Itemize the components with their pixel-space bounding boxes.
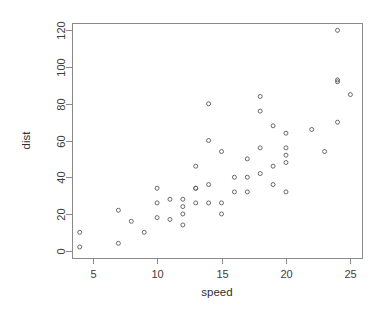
x-axis-tick-label: 25 <box>344 268 356 280</box>
data-point <box>220 212 224 216</box>
y-axis-tick-label: 20 <box>55 208 67 220</box>
data-point <box>271 164 275 168</box>
y-axis-tick-label: 100 <box>55 58 67 76</box>
data-point <box>245 175 249 179</box>
data-point <box>181 205 185 209</box>
data-point <box>181 223 185 227</box>
data-point <box>271 124 275 128</box>
x-axis: 510152025 <box>90 258 356 280</box>
scatter-plot-figure: 510152025020406080100120speeddist <box>0 0 380 313</box>
data-point <box>78 245 82 249</box>
data-point <box>155 186 159 190</box>
data-point <box>284 153 288 157</box>
data-point <box>181 212 185 216</box>
data-point <box>284 146 288 150</box>
data-point <box>336 120 340 124</box>
data-point <box>258 146 262 150</box>
y-axis-title: dist <box>20 131 32 150</box>
data-point <box>284 161 288 165</box>
data-point <box>194 201 198 205</box>
x-axis-tick-label: 5 <box>90 268 96 280</box>
data-point <box>129 219 133 223</box>
data-point <box>220 150 224 154</box>
data-point <box>310 127 314 131</box>
data-point <box>284 190 288 194</box>
data-point <box>232 190 236 194</box>
data-point <box>258 172 262 176</box>
y-axis-tick-label: 80 <box>55 98 67 110</box>
data-points-group <box>78 28 353 249</box>
y-axis-tick-label: 60 <box>55 135 67 147</box>
data-point <box>181 197 185 201</box>
data-point <box>207 201 211 205</box>
data-point <box>168 197 172 201</box>
data-point <box>168 217 172 221</box>
data-point <box>194 164 198 168</box>
data-point <box>336 28 340 32</box>
data-point <box>207 139 211 143</box>
plot-canvas: 510152025020406080100120speeddist <box>0 0 380 313</box>
data-point <box>245 190 249 194</box>
data-point <box>155 216 159 220</box>
data-point <box>232 175 236 179</box>
y-axis: 020406080100120 <box>55 21 72 254</box>
data-point <box>258 94 262 98</box>
data-point <box>323 150 327 154</box>
data-point <box>155 201 159 205</box>
x-axis-title: speed <box>201 286 232 298</box>
plot-frame <box>73 24 363 259</box>
data-point <box>116 208 120 212</box>
data-point <box>78 230 82 234</box>
data-point <box>220 201 224 205</box>
y-axis-tick-label: 0 <box>55 248 67 254</box>
x-axis-tick-label: 20 <box>280 268 292 280</box>
x-axis-tick-label: 15 <box>216 268 228 280</box>
data-point <box>284 131 288 135</box>
data-point <box>258 109 262 113</box>
data-point <box>142 230 146 234</box>
y-axis-tick-label: 40 <box>55 171 67 183</box>
data-point <box>207 183 211 187</box>
data-point <box>194 186 198 190</box>
data-point <box>245 157 249 161</box>
y-axis-tick-label: 120 <box>55 21 67 39</box>
data-point <box>271 183 275 187</box>
data-point <box>116 241 120 245</box>
data-point <box>348 93 352 97</box>
x-axis-tick-label: 10 <box>151 268 163 280</box>
data-point <box>207 102 211 106</box>
